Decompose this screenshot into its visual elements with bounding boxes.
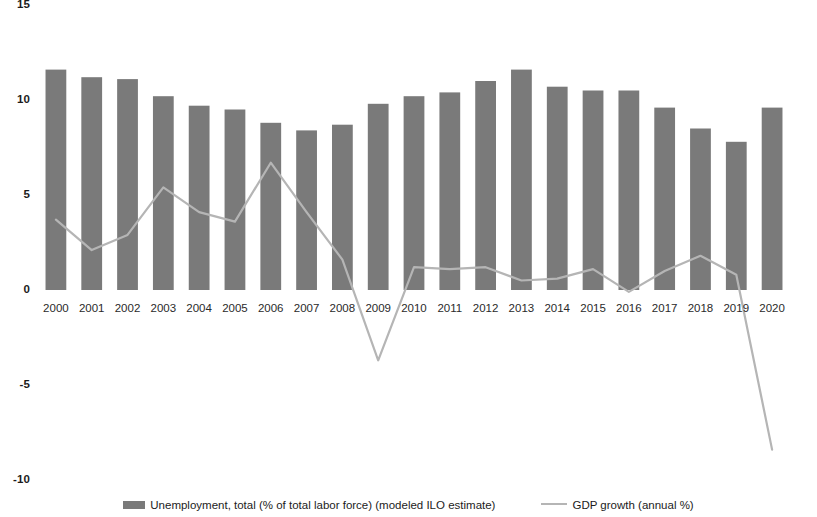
bar-2009 bbox=[368, 104, 389, 290]
x-axis-tick-2007: 2007 bbox=[289, 302, 325, 314]
bar-2008 bbox=[332, 125, 353, 290]
bar-2001 bbox=[81, 77, 102, 290]
bar-2004 bbox=[189, 106, 210, 290]
y-axis-tick-5: 5 bbox=[0, 188, 30, 200]
bar-2011 bbox=[439, 92, 460, 290]
y-axis-tick-15: 15 bbox=[0, 0, 30, 10]
bar-2000 bbox=[46, 70, 67, 290]
bar-2002 bbox=[117, 79, 138, 290]
chart-legend: Unemployment, total (% of total labor fo… bbox=[0, 493, 817, 517]
legend-label-gdp-growth: GDP growth (annual %) bbox=[572, 499, 693, 512]
x-axis-tick-2012: 2012 bbox=[468, 302, 504, 314]
legend-label-unemployment: Unemployment, total (% of total labor fo… bbox=[150, 499, 495, 512]
bar-2018 bbox=[690, 129, 711, 291]
x-axis-tick-2009: 2009 bbox=[360, 302, 396, 314]
bar-2012 bbox=[475, 81, 496, 290]
chart-container: 151050-5-10 2000200120022003200420052006… bbox=[0, 0, 817, 517]
y-axis-tick-10: 10 bbox=[0, 93, 30, 105]
x-axis-tick-2008: 2008 bbox=[324, 302, 360, 314]
x-axis-tick-2004: 2004 bbox=[181, 302, 217, 314]
x-axis-tick-2001: 2001 bbox=[74, 302, 110, 314]
legend-bar-swatch-icon bbox=[123, 501, 145, 509]
bar-2013 bbox=[511, 70, 532, 290]
y-axis-tick--5: -5 bbox=[0, 378, 30, 390]
bar-2007 bbox=[296, 130, 317, 290]
x-axis-tick-2016: 2016 bbox=[611, 302, 647, 314]
x-axis-tick-2006: 2006 bbox=[253, 302, 289, 314]
y-axis-tick--10: -10 bbox=[0, 473, 30, 485]
x-axis-tick-2014: 2014 bbox=[539, 302, 575, 314]
bar-2019 bbox=[726, 142, 747, 290]
bar-2017 bbox=[654, 108, 675, 290]
x-axis-tick-2019: 2019 bbox=[718, 302, 754, 314]
legend-item-unemployment: Unemployment, total (% of total labor fo… bbox=[123, 499, 495, 512]
x-axis-tick-2013: 2013 bbox=[504, 302, 540, 314]
y-axis-tick-0: 0 bbox=[0, 283, 30, 295]
bar-2014 bbox=[547, 87, 568, 290]
x-axis-tick-2011: 2011 bbox=[432, 302, 468, 314]
x-axis-tick-2010: 2010 bbox=[396, 302, 432, 314]
x-axis-tick-2003: 2003 bbox=[145, 302, 181, 314]
bar-2010 bbox=[404, 96, 425, 290]
bar-2016 bbox=[618, 91, 639, 291]
legend-line-swatch-icon bbox=[541, 503, 567, 505]
bar-2006 bbox=[260, 123, 281, 290]
x-axis-tick-2002: 2002 bbox=[110, 302, 146, 314]
x-axis-tick-2000: 2000 bbox=[38, 302, 74, 314]
x-axis-tick-2015: 2015 bbox=[575, 302, 611, 314]
bar-2020 bbox=[762, 108, 783, 290]
bar-2015 bbox=[583, 91, 604, 291]
x-axis-tick-2017: 2017 bbox=[647, 302, 683, 314]
x-axis-tick-2020: 2020 bbox=[754, 302, 790, 314]
x-axis-tick-2018: 2018 bbox=[683, 302, 719, 314]
legend-item-gdp-growth: GDP growth (annual %) bbox=[541, 499, 693, 512]
bar-2005 bbox=[225, 110, 246, 291]
bar-series-group bbox=[46, 70, 783, 290]
chart-plot-area bbox=[0, 0, 817, 517]
x-axis-tick-2005: 2005 bbox=[217, 302, 253, 314]
